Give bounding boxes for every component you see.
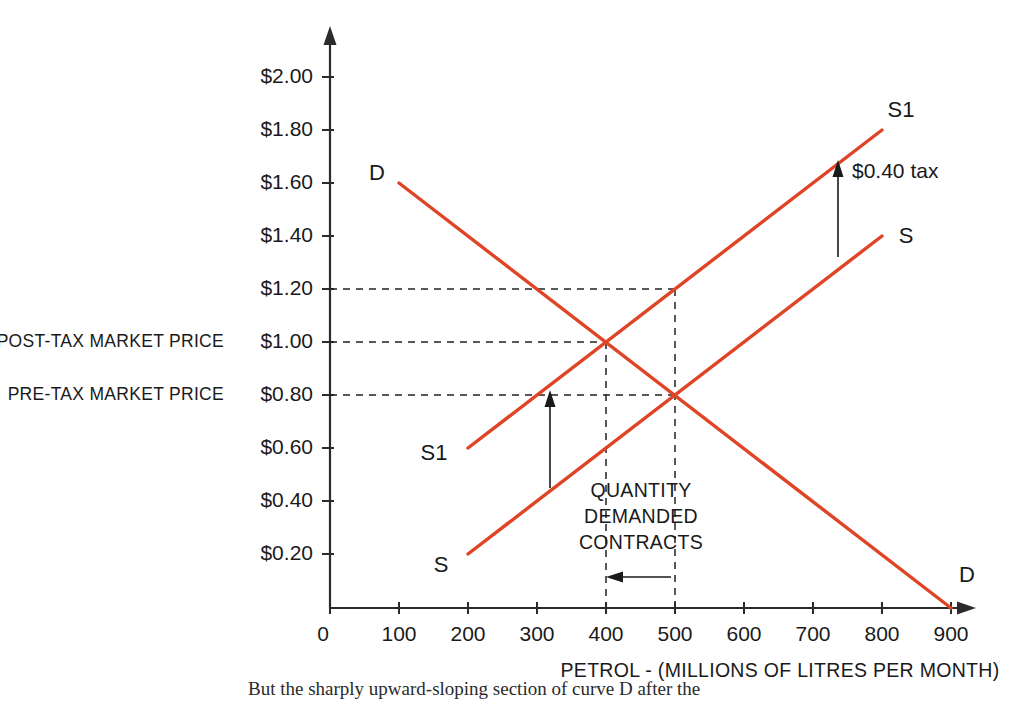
x-tick-label-0: 0 [317,622,329,645]
quantity-contract-note: QUANTITY DEMANDED CONTRACTS [579,479,703,553]
y-tick-label-1-40: $1.40 [260,223,313,246]
supply1-curve-label-left: S1 [421,440,448,465]
supply-demand-figure: $2.00 $1.80 $1.60 $1.40 $1.20 $1.00 $0.8… [0,0,1022,710]
x-axis [330,602,976,615]
tax-amount-label: $0.40 tax [852,159,939,182]
y-tick-label-1-80: $1.80 [260,117,313,140]
guide-lines [330,289,675,602]
pre-tax-market-price-caption: PRE-TAX MARKET PRICE [8,384,224,404]
y-tick-label-0-40: $0.40 [260,488,313,511]
y-tick-label-0-80: $0.80 [260,382,313,405]
x-tick-label-200: 200 [450,622,485,645]
chart-canvas: $2.00 $1.80 $1.60 $1.40 $1.20 $1.00 $0.8… [0,0,1022,710]
supply-curve-label-right: S [899,223,914,248]
y-tick-label-1-00: $1.00 [260,329,313,352]
x-tick-label-600: 600 [726,622,761,645]
x-tick-label-500: 500 [657,622,692,645]
y-tick-label-1-60: $1.60 [260,170,313,193]
note-line-quantity: QUANTITY [591,479,692,501]
y-tick-label-1-20: $1.20 [260,276,313,299]
supply-shift-annotation-group [545,390,556,488]
tax-annotation-group: $0.40 tax [833,159,939,257]
contraction-arrow-head-icon [606,572,623,583]
demand-curve-label-right: D [959,562,975,587]
y-tick-label-2-00: $2.00 [260,64,313,87]
supply-shift-arrow-head-icon [545,390,556,407]
x-tick-label-900: 900 [933,622,968,645]
page-body-text-fragment: But the sharply upward-sloping section o… [248,678,700,700]
supply1-curve-label-right: S1 [888,97,915,122]
x-tick-labels: 0 100 200 300 400 500 600 700 800 900 [317,622,968,645]
y-tick-label-0-60: $0.60 [260,435,313,458]
x-tick-label-800: 800 [864,622,899,645]
supply-curve-label-left: S [434,552,449,577]
x-tick-label-700: 700 [795,622,830,645]
contraction-arrow-group [606,572,671,583]
y-tick-labels: $2.00 $1.80 $1.60 $1.40 $1.20 $1.00 $0.8… [260,64,313,564]
y-axis [324,26,337,608]
x-axis-arrowhead [957,602,976,615]
x-tick-label-100: 100 [381,622,416,645]
post-tax-market-price-caption: POST-TAX MARKET PRICE [0,331,224,351]
note-line-contracts: CONTRACTS [579,531,703,553]
y-axis-arrowhead [324,26,337,45]
y-tick-marks [322,77,334,554]
x-tick-label-300: 300 [519,622,554,645]
price-captions: POST-TAX MARKET PRICE PRE-TAX MARKET PRI… [0,331,224,404]
y-tick-label-0-20: $0.20 [260,541,313,564]
demand-curve-label-left: D [369,160,385,185]
note-line-demanded: DEMANDED [584,505,698,527]
x-tick-label-400: 400 [588,622,623,645]
